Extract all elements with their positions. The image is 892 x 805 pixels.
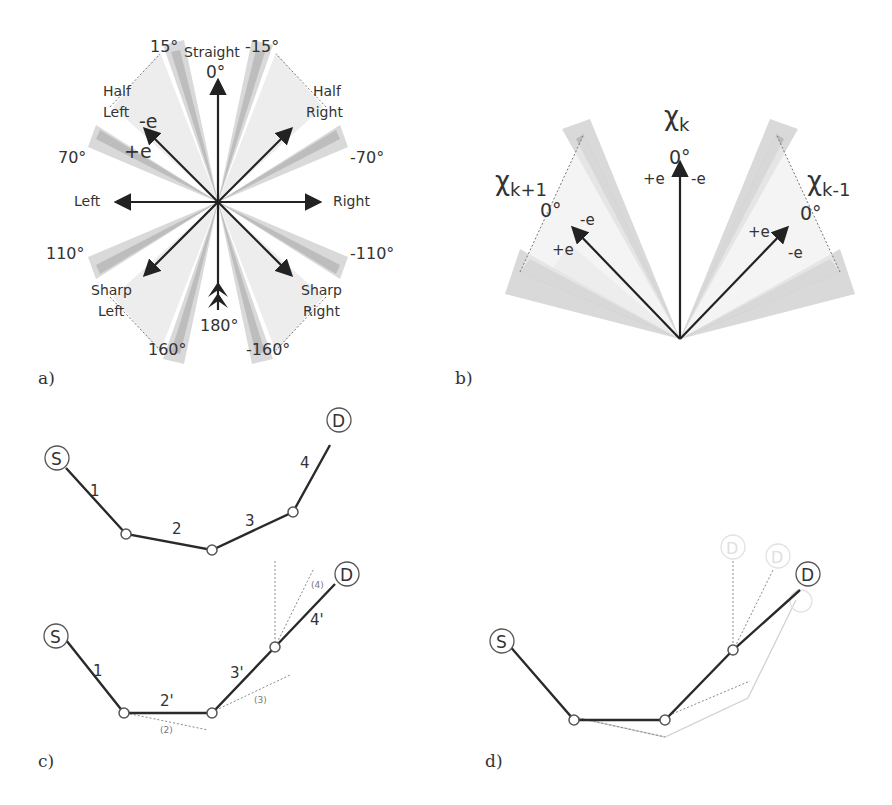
c-bottom-source-label: S <box>50 627 61 647</box>
d-ghost-dest-1: D <box>726 539 738 558</box>
label-sharp-left-1: Sharp <box>91 282 132 298</box>
c-ghost-seg-4: (4) <box>311 580 324 590</box>
angle-minus-15: -15° <box>245 37 279 56</box>
angle-160: 160° <box>148 340 187 359</box>
label-half-left-2: Left <box>103 104 130 120</box>
label-half-left-1: Half <box>103 83 132 99</box>
c-bottom-seg-1: 1 <box>93 662 103 680</box>
c-top-seg-2: 2 <box>172 520 182 538</box>
b-zero-right: 0° <box>800 202 822 224</box>
panel-d-label: d) <box>485 751 503 771</box>
b-minus-e-center: -e <box>691 170 706 188</box>
label-sharp-left-2: Left <box>98 303 125 319</box>
figure-canvas: 15° Straight -15° 0° Half Left Half Righ… <box>0 0 892 805</box>
b-zero-left: 0° <box>540 199 562 221</box>
c-bottom-dest-label: D <box>340 565 353 585</box>
label-left: Left <box>74 193 101 209</box>
panel-b-label: b) <box>455 368 473 388</box>
c-ghost-seg-3: (3) <box>254 695 267 705</box>
c-top-source-label: S <box>51 449 62 469</box>
b-zero-center: 0° <box>669 146 691 168</box>
c-ghost-seg-2: (2) <box>160 725 173 735</box>
angle-minus-160: -160° <box>246 340 290 359</box>
label-plus-e: +e <box>124 140 152 162</box>
angle-110: 110° <box>46 244 85 263</box>
b-plus-e-center: +e <box>643 170 665 188</box>
label-right: Right <box>333 193 370 209</box>
label-half-right-1: Half <box>313 83 342 99</box>
angle-70: 70° <box>58 148 86 167</box>
c-top-seg-4: 4 <box>300 454 310 472</box>
c-top-seg-3: 3 <box>245 512 255 530</box>
angle-minus-110: -110° <box>350 244 394 263</box>
b-plus-e-left: +e <box>552 241 574 259</box>
b-plus-e-right: +e <box>748 223 770 241</box>
c-top-seg-1: 1 <box>90 482 100 500</box>
d-source-label: S <box>496 632 507 652</box>
chi-k: χk <box>664 101 690 135</box>
chi-k-minus-1: χk-1 <box>807 166 850 200</box>
c-bottom-seg-3: 3' <box>230 664 244 682</box>
b-minus-e-left: -e <box>580 211 595 229</box>
c-bottom-seg-2: 2' <box>160 692 174 710</box>
label-half-right-2: Right <box>306 104 343 120</box>
c-top-dest-label: D <box>332 411 345 431</box>
c-bottom-seg-4: 4' <box>310 611 324 629</box>
panel-a-label: a) <box>38 368 55 388</box>
chi-k-plus-1: χk+1 <box>495 166 547 200</box>
angle-15: 15° <box>150 37 178 56</box>
b-minus-e-right: -e <box>788 244 803 262</box>
label-sharp-right-1: Sharp <box>301 282 342 298</box>
label-minus-e: -e <box>139 110 158 132</box>
angle-minus-70: -70° <box>350 148 384 167</box>
angle-180: 180° <box>200 316 239 335</box>
label-straight: Straight <box>184 44 240 60</box>
angle-0: 0° <box>206 62 225 82</box>
d-dest-label: D <box>801 565 814 585</box>
label-sharp-right-2: Right <box>303 303 340 319</box>
d-ghost-dest-2: D <box>771 548 783 567</box>
panel-c-label: c) <box>38 751 54 771</box>
